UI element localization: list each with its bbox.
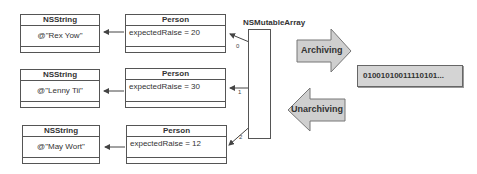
array-index-2: 2 bbox=[239, 134, 242, 140]
unarchiving-label: Unarchiving bbox=[291, 104, 343, 114]
nsstring-header: NSString bbox=[21, 70, 99, 81]
box-footer bbox=[126, 101, 225, 107]
nsstring-box-1: NSString @"Rex Yow" bbox=[20, 14, 100, 53]
box-footer bbox=[126, 46, 225, 52]
nsstring-header: NSString bbox=[23, 126, 99, 137]
person-header: Person bbox=[126, 69, 225, 80]
box-footer bbox=[21, 46, 99, 52]
nsstring-box-2: NSString @"Lenny Tii" bbox=[20, 69, 100, 108]
archiving-label: Archiving bbox=[301, 45, 343, 55]
array-index-1: 1 bbox=[238, 89, 241, 95]
person-header: Person bbox=[127, 126, 226, 137]
person-header: Person bbox=[126, 15, 225, 26]
box-footer bbox=[127, 157, 226, 163]
box-footer bbox=[23, 157, 99, 163]
person-value: expectedRaise = 20 bbox=[126, 26, 225, 46]
person-value: expectedRaise = 12 bbox=[127, 137, 226, 157]
nsmutablearray-box bbox=[248, 29, 271, 139]
person-box-3: Person expectedRaise = 12 bbox=[126, 125, 227, 164]
nsstring-value: @"May Wort" bbox=[23, 137, 99, 157]
nsstring-header: NSString bbox=[21, 15, 99, 26]
nsstring-value: @"Lenny Tii" bbox=[21, 81, 99, 101]
box-footer bbox=[21, 101, 99, 107]
array-label: NSMutableArray bbox=[243, 18, 305, 27]
person-box-2: Person expectedRaise = 30 bbox=[125, 68, 226, 108]
nsstring-value: @"Rex Yow" bbox=[21, 26, 99, 46]
array-index-0: 0 bbox=[236, 43, 239, 49]
nsstring-box-3: NSString @"May Wort" bbox=[22, 125, 100, 164]
person-value: expectedRaise = 30 bbox=[126, 80, 225, 101]
binary-data-box: 01001010011110101... bbox=[357, 65, 463, 87]
person-box-1: Person expectedRaise = 20 bbox=[125, 14, 226, 53]
